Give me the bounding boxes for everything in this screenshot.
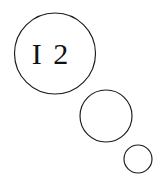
medium-circle bbox=[80, 90, 132, 142]
large-circle-label: I 2 bbox=[32, 37, 71, 70]
circles-diagram: I 2 bbox=[0, 0, 160, 185]
small-circle bbox=[124, 145, 152, 173]
figure-canvas: I 2 bbox=[0, 0, 160, 185]
